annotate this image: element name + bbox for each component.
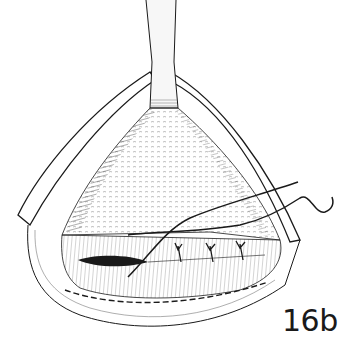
illustration: 16b — [0, 0, 349, 351]
retractor — [146, 0, 178, 108]
surgical-drawing — [0, 0, 349, 351]
figure-label: 16b — [282, 303, 338, 338]
wound-cavity — [62, 108, 281, 302]
